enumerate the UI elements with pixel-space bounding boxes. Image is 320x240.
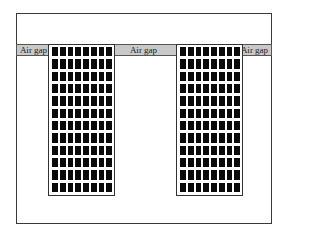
conductor-turn [91, 47, 97, 56]
conductor-turn [52, 146, 58, 155]
conductor-turn [188, 133, 194, 142]
conductor-turn [68, 158, 74, 167]
conductor-turn [211, 72, 217, 81]
conductor-turn [234, 146, 240, 155]
conductor-turn [52, 84, 58, 93]
conductor-turn [196, 146, 202, 155]
conductor-turn [211, 158, 217, 167]
air-gap-center: Air gap [110, 44, 177, 56]
conductor-turn [227, 96, 233, 105]
conductor-turn [203, 133, 209, 142]
conductor-turn [203, 183, 209, 192]
conductor-turn [203, 158, 209, 167]
conductor-turn [227, 183, 233, 192]
conductor-turn [180, 96, 186, 105]
conductor-turn [83, 47, 89, 56]
conductor-turn [219, 72, 225, 81]
conductor-turn [106, 133, 112, 142]
conductor-turn [219, 47, 225, 56]
air-gap-right: Air gap [238, 44, 272, 56]
conductor-turn [75, 109, 81, 118]
conductor-turn [106, 158, 112, 167]
conductor-turn [219, 109, 225, 118]
conductor-turn [203, 109, 209, 118]
conductor-turn [180, 109, 186, 118]
conductor-turn [52, 121, 58, 130]
conductor-turn [91, 109, 97, 118]
conductor-turn [75, 183, 81, 192]
conductor-turn [188, 183, 194, 192]
conductor-turn [188, 121, 194, 130]
conductor-turn [196, 47, 202, 56]
conductor-turn [52, 183, 58, 192]
conductor-turn [188, 146, 194, 155]
conductor-turn [234, 59, 240, 68]
conductor-turn [83, 84, 89, 93]
conductor-turn [211, 133, 217, 142]
conductor-turn [227, 84, 233, 93]
conductor-turn [83, 121, 89, 130]
conductor-turn [227, 47, 233, 56]
conductor-turn [180, 183, 186, 192]
conductor-turn [219, 133, 225, 142]
conductor-turn [227, 170, 233, 179]
conductor-turn [60, 170, 66, 179]
conductor-turn [52, 109, 58, 118]
conductor-turn [106, 146, 112, 155]
conductor-turn [188, 47, 194, 56]
conductor-turn [180, 158, 186, 167]
conductor-turn [227, 72, 233, 81]
conductor-turn [83, 146, 89, 155]
conductor-turn [68, 72, 74, 81]
conductor-turn [91, 96, 97, 105]
conductor-turn [52, 133, 58, 142]
conductor-turn [203, 170, 209, 179]
conductor-turn [60, 133, 66, 142]
conductor-turn [60, 158, 66, 167]
conductor-turn [60, 47, 66, 56]
conductor-turn [180, 146, 186, 155]
conductor-turn [234, 96, 240, 105]
conductor-turn [219, 146, 225, 155]
conductor-turn [52, 72, 58, 81]
conductor-turn [188, 84, 194, 93]
conductor-turn [83, 96, 89, 105]
conductor-turn [75, 59, 81, 68]
conductor-turn [75, 84, 81, 93]
conductor-turn [211, 84, 217, 93]
conductor-turn [52, 170, 58, 179]
conductor-turn [188, 72, 194, 81]
conductor-turn [75, 133, 81, 142]
conductor-turn [234, 133, 240, 142]
conductor-turn [60, 96, 66, 105]
conductor-turn [91, 84, 97, 93]
conductor-turn [234, 158, 240, 167]
conductor-turn [68, 170, 74, 179]
coil-winding-right [176, 44, 243, 196]
conductor-turn [106, 59, 112, 68]
conductor-turn [106, 183, 112, 192]
conductor-turn [196, 183, 202, 192]
conductor-turn [99, 84, 105, 93]
conductor-turn [75, 121, 81, 130]
conductor-turn [83, 158, 89, 167]
conductor-turn [91, 183, 97, 192]
conductor-turn [196, 72, 202, 81]
conductor-turn [68, 96, 74, 105]
conductor-turn [196, 158, 202, 167]
conductor-turn [188, 96, 194, 105]
conductor-turn [211, 170, 217, 179]
conductor-turn [60, 59, 66, 68]
conductor-turn [188, 158, 194, 167]
conductor-turn [83, 133, 89, 142]
conductor-turn [52, 59, 58, 68]
conductor-turn [234, 183, 240, 192]
conductor-turn [203, 59, 209, 68]
conductor-turn [52, 96, 58, 105]
conductor-turn [106, 109, 112, 118]
conductor-turn [196, 121, 202, 130]
conductor-turn [83, 170, 89, 179]
conductor-turn [203, 146, 209, 155]
conductor-turn [211, 146, 217, 155]
conductor-turn [211, 47, 217, 56]
